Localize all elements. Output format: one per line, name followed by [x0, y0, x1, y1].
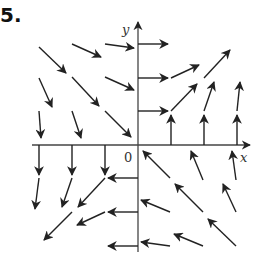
- x-axis-label: x: [240, 150, 248, 165]
- vector-arrow: [204, 82, 214, 111]
- vector-arrow: [204, 50, 230, 78]
- vector-arrow: [208, 219, 236, 246]
- vector-arrow: [105, 44, 134, 48]
- vector-arrow: [141, 200, 170, 212]
- vector-arrow: [171, 84, 197, 111]
- vector-arrow: [78, 178, 105, 207]
- vector-field-diagram: x y 0: [0, 0, 274, 272]
- vector-arrow: [39, 111, 41, 138]
- axes: x y 0: [32, 22, 250, 252]
- vector-arrow: [143, 151, 170, 178]
- vector-arrow: [44, 212, 72, 240]
- vector-arrow: [62, 178, 72, 207]
- vector-arrow: [105, 77, 134, 90]
- vector-arrow: [39, 47, 66, 73]
- vector-arrow: [237, 82, 240, 111]
- vector-arrow: [72, 77, 99, 106]
- vector-arrow: [232, 151, 236, 180]
- vector-arrow: [105, 111, 131, 137]
- vector-arrow: [72, 44, 101, 57]
- vector-arrow: [174, 234, 203, 246]
- vector-arrow: [223, 184, 236, 212]
- vector-arrow: [171, 65, 199, 78]
- vector-arrow: [175, 184, 203, 212]
- y-axis-label: y: [121, 22, 130, 37]
- vector-arrow: [35, 178, 39, 209]
- vector-arrow: [77, 212, 105, 225]
- vector-arrow: [39, 78, 52, 107]
- vector-arrow: [191, 151, 203, 180]
- vector-arrow: [72, 111, 81, 138]
- origin-label: 0: [124, 150, 132, 165]
- vector-arrow: [141, 242, 170, 246]
